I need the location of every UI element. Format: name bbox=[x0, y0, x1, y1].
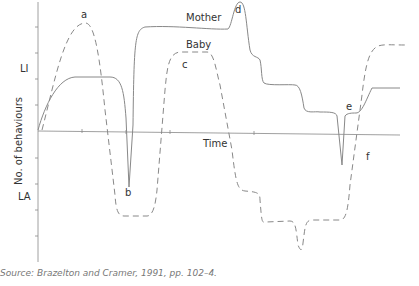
label-baby: Baby bbox=[186, 39, 211, 50]
source-caption: Source: Brazelton and Cramer, 1991, pp. … bbox=[0, 268, 217, 278]
label-f: f bbox=[366, 151, 370, 162]
mother-line bbox=[38, 2, 400, 187]
label-b: b bbox=[125, 187, 131, 198]
label-a: a bbox=[81, 9, 87, 20]
baby-line bbox=[42, 23, 406, 250]
x-axis-label: Time bbox=[202, 138, 227, 149]
y-label-la: LA bbox=[18, 191, 31, 202]
chart: Mother Baby a b c d e f Time No. of beha… bbox=[0, 0, 419, 286]
y-axis-label: No. of behaviours bbox=[13, 97, 24, 185]
label-c: c bbox=[182, 59, 188, 70]
label-mother: Mother bbox=[186, 12, 222, 23]
label-d: d bbox=[235, 4, 241, 15]
x-axis bbox=[38, 131, 400, 135]
y-label-li: LI bbox=[20, 63, 29, 74]
label-e: e bbox=[346, 101, 352, 112]
y-ticks bbox=[35, 27, 38, 236]
